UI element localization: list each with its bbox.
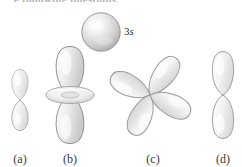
caption-b: (b) [50,152,90,167]
caption-d: (d) [203,152,242,167]
choice-a-orbital[interactable] [0,65,40,135]
choice-c-orbital[interactable] [105,49,195,141]
choice-b-orbital[interactable] [35,43,105,147]
caption-c: (c) [133,152,173,167]
cutoff-header-text: e following questions. [14,0,144,2]
orbital-figure: e following questions. 3s [0,0,242,167]
choice-d-orbital[interactable] [201,49,242,141]
reference-orbital-label: 3s [124,25,134,37]
orbital-label-subshell: s [130,25,134,37]
caption-a: (a) [0,152,40,167]
